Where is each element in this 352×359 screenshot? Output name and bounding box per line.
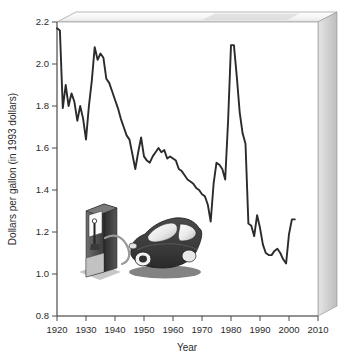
- y-tick-label: 1.2: [36, 226, 49, 237]
- y-tick-label: 2.2: [36, 16, 49, 27]
- x-tick-label: 2010: [307, 324, 328, 335]
- y-axis-ticks: 0.81.01.21.41.61.82.02.2: [36, 16, 57, 321]
- x-axis-title: Year: [177, 342, 198, 353]
- x-tick-label: 1960: [162, 324, 183, 335]
- x-tick-label: 1980: [220, 324, 241, 335]
- car-rear-wheel: [182, 250, 196, 262]
- x-axis-ticks: 1920193019401950196019701980199020002010: [46, 316, 328, 335]
- y-tick-label: 0.8: [36, 310, 49, 321]
- y-tick-label: 1.0: [36, 268, 49, 279]
- x-tick-label: 2000: [278, 324, 299, 335]
- x-tick-label: 1970: [191, 324, 212, 335]
- x-tick-label: 1940: [104, 324, 125, 335]
- pump-nozzle-head: [92, 219, 96, 223]
- x-tick-label: 1920: [46, 324, 67, 335]
- frame-top-shadow: [202, 14, 300, 21]
- y-tick-label: 2.0: [36, 58, 49, 69]
- y-tick-label: 1.4: [36, 184, 49, 195]
- y-tick-label: 1.8: [36, 100, 49, 111]
- chart-figure: 0.81.01.21.41.61.82.02.2 192019301940195…: [0, 0, 352, 359]
- car-headlight: [129, 243, 137, 249]
- car-front-hubcap: [139, 256, 147, 263]
- pump-nozzle-grip: [90, 244, 100, 250]
- frame-right-panel: [318, 12, 337, 316]
- x-tick-label: 1950: [133, 324, 154, 335]
- x-tick-label: 1990: [249, 324, 270, 335]
- y-axis-title: Dollars per gallon (in 1993 dollars): [7, 93, 18, 245]
- line-chart-svg: 0.81.01.21.41.61.82.02.2 192019301940195…: [0, 0, 352, 359]
- pump-nozzle-stem: [94, 222, 96, 246]
- x-tick-label: 1930: [75, 324, 96, 335]
- y-tick-label: 1.6: [36, 142, 49, 153]
